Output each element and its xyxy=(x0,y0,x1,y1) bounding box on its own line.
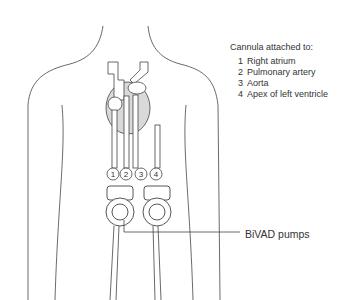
pump-label: BiVAD pumps xyxy=(245,228,310,240)
marker-3: 3 xyxy=(139,170,144,179)
left-shoulder-outline xyxy=(28,26,103,300)
pump-label-leader xyxy=(124,220,240,232)
bivad-diagram: 1 2 3 4 Cannula attached to: 1Right atri… xyxy=(0,0,339,300)
legend-title: Cannula attached to: xyxy=(230,42,328,53)
legend-item: 3Aorta xyxy=(230,78,328,89)
legend-item: 2Pulmonary artery xyxy=(230,67,328,78)
legend-item: 4Apex of left ventricle xyxy=(230,89,328,100)
marker-1: 1 xyxy=(111,170,116,179)
legend-item: 1Right atrium xyxy=(230,56,328,67)
marker-2: 2 xyxy=(124,170,129,179)
cannula-legend: Cannula attached to: 1Right atrium 2Pulm… xyxy=(230,42,328,100)
marker-4: 4 xyxy=(154,170,159,179)
